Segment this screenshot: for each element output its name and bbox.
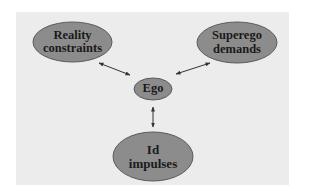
node-label-line2: impulses xyxy=(129,157,177,171)
arrow-superego-ego xyxy=(176,63,210,74)
node-label-line1: Superego xyxy=(212,29,262,42)
node-label: Ego xyxy=(143,82,164,95)
superego-demands-node: Superego demands xyxy=(197,22,277,63)
node-label-line1: Id xyxy=(129,143,177,157)
node-label-line2: demands xyxy=(212,43,262,56)
id-impulses-node: Id impulses xyxy=(113,132,193,181)
node-label-line2: constraints xyxy=(43,42,102,55)
arrow-reality-ego xyxy=(99,63,130,75)
reality-constraints-node: Reality constraints xyxy=(33,22,112,62)
ego-node: Ego xyxy=(134,78,172,100)
